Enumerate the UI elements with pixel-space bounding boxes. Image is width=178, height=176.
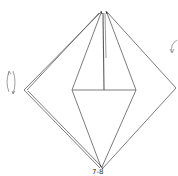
origami-diagram bbox=[0, 0, 178, 176]
inner-diamond bbox=[72, 13, 136, 167]
step-label: 7-8 bbox=[92, 168, 103, 176]
fold-arrow-right-icon bbox=[170, 40, 177, 53]
rotate-arrow-left-icon bbox=[7, 71, 15, 94]
